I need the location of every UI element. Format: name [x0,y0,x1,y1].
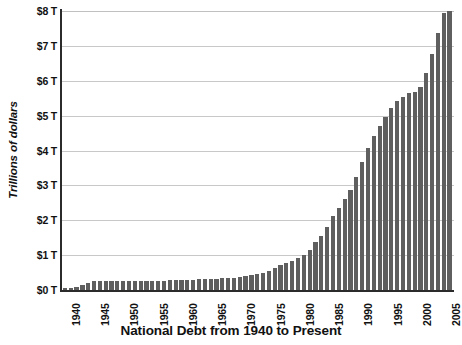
bar [232,278,236,290]
bar [249,275,253,290]
chart-title: National Debt from 1940 to Present [0,323,462,338]
bar [109,281,113,290]
bar [144,281,148,290]
bar [226,278,230,290]
bar [179,280,183,290]
bar [436,33,440,290]
bar [209,279,213,290]
bar [191,280,195,290]
y-axis-tick-label: $2 T [37,214,57,226]
bar [220,278,224,290]
y-axis-line [60,9,62,292]
bar [442,13,446,290]
bar [139,281,143,290]
bar [255,274,259,290]
y-axis-tick-label: $0 T [37,284,57,296]
bar [121,281,125,290]
y-axis-title: Trillions of dollars [0,0,26,300]
y-axis-tick-label: $7 T [37,40,57,52]
bar [150,281,154,290]
bar [354,177,358,290]
bar [424,73,428,290]
bar [360,162,364,290]
bar [407,93,411,290]
y-axis-tick-label: $1 T [37,249,57,261]
bar [278,265,282,290]
bar [98,281,102,290]
bar [313,242,317,290]
bar [296,258,300,290]
bar [273,268,277,290]
bar [127,281,131,290]
bar [395,101,399,290]
bar [284,263,288,290]
bar [290,261,294,290]
bars-container [62,11,454,290]
bar [447,11,451,290]
bar [92,281,96,290]
y-axis-tick-label: $8 T [37,5,57,17]
bar [348,190,352,290]
bar [418,87,422,290]
bar [174,280,178,290]
bar [308,250,312,290]
bar [243,276,247,290]
bar [378,126,382,290]
bar [185,280,189,290]
bar [343,199,347,290]
bar [319,236,323,290]
bar [302,255,306,290]
plot-area [62,11,454,290]
y-axis-tick-label: $6 T [37,75,57,87]
bar [261,273,265,290]
bar [115,281,119,290]
bar [337,208,341,290]
y-axis-tick-label: $5 T [37,110,57,122]
bar [372,136,376,290]
bar [197,279,201,290]
bar [133,281,137,290]
bar [168,280,172,290]
bar [156,281,160,290]
bar [238,277,242,290]
bar [214,279,218,291]
national-debt-bar-chart: Trillions of dollars $8 T$7 T$6 T$5 T$4 … [0,0,462,345]
bar [104,281,108,290]
bar [389,108,393,290]
y-axis-title-text: Trillions of dollars [7,101,19,198]
x-axis-line [60,290,454,292]
bar [203,279,207,290]
bar [383,117,387,290]
bar [401,97,405,290]
bar [267,271,271,290]
bar [331,216,335,290]
bar [366,148,370,290]
y-axis-tick-labels: $8 T$7 T$6 T$5 T$4 T$3 T$2 T$1 T$0 T [26,0,60,300]
bar [413,92,417,290]
y-axis-tick-label: $3 T [37,179,57,191]
y-axis-tick-label: $4 T [37,145,57,157]
bar [430,54,434,290]
bar [86,283,90,290]
bar [325,227,329,290]
bar [162,281,166,290]
